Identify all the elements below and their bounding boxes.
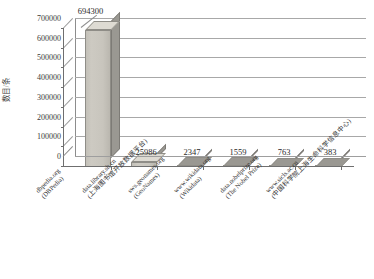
x-label-wikidata: www.wikidata.org (Wikidata) bbox=[172, 155, 218, 201]
x-label-sicls: www.sicls.ac.cn (中国科学院上海生命科学信息中心) bbox=[264, 112, 353, 201]
bar-chart: 数目/条 700000 600000 500000 400000 300000 … bbox=[0, 0, 374, 279]
x-axis-category-labels: dbpedia.org (DBPedia) data.library.sh.cn… bbox=[0, 0, 374, 279]
x-label-nobelprize: data.nobelprize.org (The Nobel Prize) bbox=[218, 153, 266, 201]
x-label-line2: (中国科学院上海生命科学信息中心) bbox=[270, 117, 353, 200]
x-label-geonames: sws.geonames.org (GeoNames) bbox=[126, 155, 172, 201]
x-label-dbpedia: dbpedia.org (DBPedia) bbox=[34, 167, 68, 201]
